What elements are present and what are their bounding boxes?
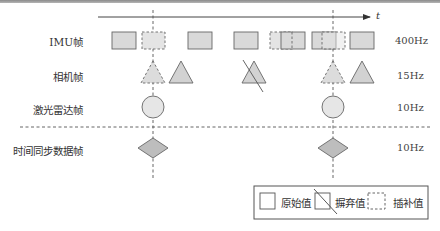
row-label-camera: 相机帧 — [0, 69, 83, 84]
row-label-lidar: 激光雷达帧 — [0, 102, 83, 117]
row-label-imu: IMU帧 — [0, 34, 83, 49]
legend-interpolated-label: 插补值 — [393, 195, 423, 210]
lidar-frames — [142, 96, 344, 118]
sync-data-frames — [138, 138, 348, 158]
legend-original-label: 原始值 — [281, 195, 311, 210]
freq-lidar: 10Hz — [397, 102, 424, 113]
time-axis-label: t — [376, 10, 380, 21]
freq-camera: 15Hz — [397, 70, 424, 81]
freq-imu: 400Hz — [395, 35, 428, 46]
freq-sync: 10Hz — [397, 142, 424, 153]
imu-frames — [112, 32, 374, 49]
legend-discarded-label: 摒弃值 — [335, 195, 365, 210]
camera-frames — [141, 60, 374, 92]
row-label-sync: 时间同步数据帧 — [0, 143, 83, 158]
